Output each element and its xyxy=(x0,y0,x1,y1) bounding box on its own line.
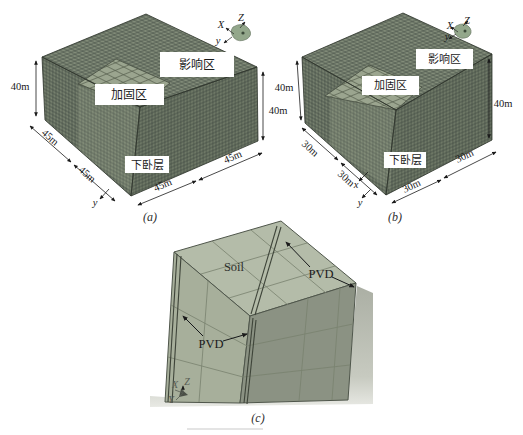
axis-arrow-y xyxy=(224,37,232,43)
pvd-label-left: PVD xyxy=(198,337,223,351)
dim-label-edge-left-2: 45m xyxy=(77,164,98,185)
dim-label-edge-left-1: 30m xyxy=(300,138,321,159)
axis-label-z: Z xyxy=(238,12,244,23)
axis-triad-a: X Z y xyxy=(215,12,251,46)
label-text: 影响区 xyxy=(428,53,461,65)
soil-label: Soil xyxy=(224,260,245,274)
zone-label-underlying-b: 下卧层 xyxy=(384,152,426,168)
zone-label-underlying-a: 下卧层 xyxy=(125,156,169,173)
soil-column xyxy=(165,221,356,404)
axis-label-z: Z xyxy=(184,376,190,387)
origin-label-y: y xyxy=(92,197,98,208)
panel-a: 40m 40m 45m 45m 45m 45m 影响区 加固区 下卧层 X Z … xyxy=(11,12,288,224)
label-text: 下卧层 xyxy=(131,159,164,171)
dim-label-left-height: 40m xyxy=(275,82,294,93)
zone-label-influence-b: 影响区 xyxy=(416,49,473,69)
caption-a: (a) xyxy=(143,210,157,224)
axis-icon-dot xyxy=(241,31,244,34)
axis-label-x: X xyxy=(446,20,454,31)
label-text: 下卧层 xyxy=(389,154,422,166)
label-text: 加固区 xyxy=(111,88,147,102)
zone-label-reinforced-a: 加固区 xyxy=(95,84,164,105)
axis-label-x: X xyxy=(217,19,225,30)
zone-label-influence-a: 影响区 xyxy=(160,52,234,77)
label-text: 加固区 xyxy=(374,79,407,91)
dim-label-left-height: 40m xyxy=(11,81,30,92)
figure-canvas: 40m 40m 45m 45m 45m 45m 影响区 加固区 下卧层 X Z … xyxy=(0,0,523,435)
pvd-label-right: PVD xyxy=(308,267,333,281)
axis-icon-dot xyxy=(464,30,467,33)
caption-c: (c) xyxy=(251,411,264,425)
dim-label-right-height: 40m xyxy=(269,105,288,116)
axis-label-z: Z xyxy=(464,15,470,26)
dim-label-right-height: 40m xyxy=(494,98,513,109)
axis-label-y: y xyxy=(444,31,450,42)
origin-arrow-y xyxy=(100,189,109,199)
mesh-figure-svg: 40m 40m 45m 45m 45m 45m 影响区 加固区 下卧层 X Z … xyxy=(0,0,523,435)
origin-label-y: y xyxy=(357,197,363,208)
origin-arrow-y xyxy=(362,189,371,198)
axis-label-y: y xyxy=(215,35,221,46)
dim-line-left-height xyxy=(297,61,301,120)
caption-b: (b) xyxy=(388,210,402,224)
axis-label-x: X xyxy=(171,379,179,390)
panel-b: 40m 40m 30m 30m 30m 30m 影响区 加固区 下卧层 X Z … xyxy=(275,13,513,224)
origin-axes-a: y xyxy=(92,189,109,208)
origin-label-x: x xyxy=(353,179,359,190)
zone-label-reinforced-b: 加固区 xyxy=(362,76,419,95)
panel-c: Soil PVD PVD X Z Y (c) xyxy=(150,221,373,425)
label-text: 影响区 xyxy=(179,57,215,72)
